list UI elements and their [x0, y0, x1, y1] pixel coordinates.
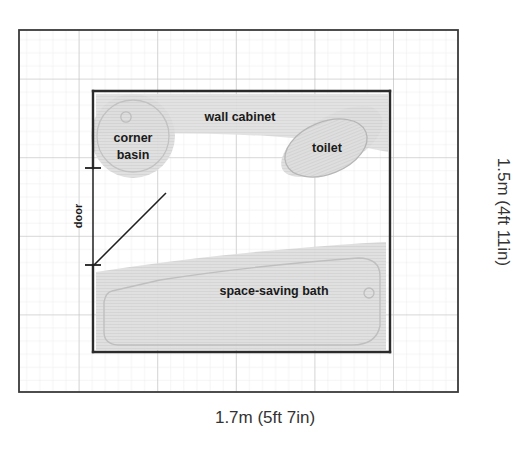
- corner-basin-label-line1: corner: [114, 131, 153, 145]
- width-dimension-label: 1.7m (5ft 7in): [215, 408, 315, 427]
- corner-basin-label-line2: basin: [117, 148, 150, 162]
- floor-plan-drawing: corner basin wall cabinet toilet space-s…: [0, 0, 526, 466]
- toilet-label: toilet: [312, 141, 343, 155]
- wall-cabinet-label: wall cabinet: [204, 110, 277, 124]
- space-saving-bath-label: space-saving bath: [219, 284, 328, 298]
- height-dimension-label: 1.5m (4ft 11in): [494, 158, 513, 266]
- floor-plan-container: corner basin wall cabinet toilet space-s…: [0, 0, 526, 466]
- door-label: door: [72, 203, 84, 228]
